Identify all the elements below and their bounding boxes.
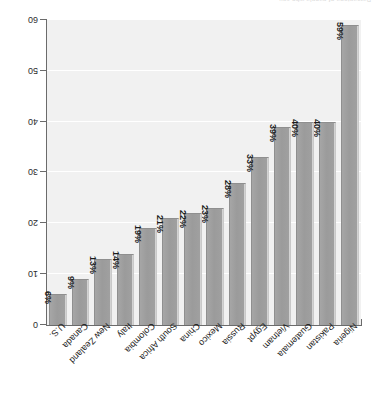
bar[interactable] (274, 127, 291, 325)
axis-tick (40, 121, 46, 122)
bar-value-label: 13% (88, 256, 98, 274)
gridline (47, 70, 361, 71)
bar[interactable] (229, 183, 246, 325)
bar-value-label: 23% (200, 205, 210, 223)
bar[interactable] (296, 122, 313, 325)
bar[interactable] (162, 218, 179, 325)
axis-tick-label: 0 (33, 320, 38, 330)
bar-value-label: 14% (111, 251, 121, 269)
bar-value-label: 40% (290, 119, 300, 137)
zero-baseline (46, 325, 362, 326)
baseline-cap (361, 319, 362, 326)
bar[interactable] (251, 157, 268, 325)
bar-chart: 0102030405060 59%40%40%39%33%28%23%22%21… (0, 0, 379, 404)
bar[interactable] (341, 25, 358, 325)
axis-tick-label: 30 (28, 168, 38, 178)
axis-tick-label: 50 (28, 66, 38, 76)
axis-tick (40, 172, 46, 173)
bar-value-label: 40% (312, 119, 322, 137)
bar-value-label: 6% (43, 292, 53, 305)
bar[interactable] (319, 122, 336, 325)
axis-tick (40, 273, 46, 274)
axis-tick-label: 60 (28, 15, 38, 25)
bar[interactable] (184, 213, 201, 325)
axis-tick-label: 10 (28, 269, 38, 279)
axis-tick (40, 324, 46, 325)
bar-value-label: 33% (245, 154, 255, 172)
axis-tick (40, 70, 46, 71)
bar-value-label: 21% (155, 215, 165, 233)
bar-value-label: 22% (178, 210, 188, 228)
bar-value-label: 59% (335, 22, 345, 40)
axis-tick-label: 20 (28, 218, 38, 228)
rotated-figure: Percentage of people who say ... 0102030… (0, 0, 379, 404)
axis-tick (40, 19, 46, 20)
bar-value-label: 9% (66, 276, 76, 289)
value-axis-spine (46, 19, 47, 326)
gridline (47, 172, 361, 173)
bar[interactable] (206, 208, 223, 325)
bar-value-label: 28% (223, 180, 233, 198)
bar-value-label: 39% (268, 124, 278, 142)
axis-tick-label: 40 (28, 117, 38, 127)
axis-tick (40, 222, 46, 223)
bar-value-label: 19% (133, 225, 143, 243)
